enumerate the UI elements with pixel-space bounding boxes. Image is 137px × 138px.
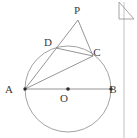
- center-dot-O: [66, 87, 70, 91]
- point-label-C: C: [93, 46, 100, 58]
- page-fold-icon: [119, 2, 134, 19]
- segment-PA: [25, 20, 78, 89]
- point-label-A: A: [5, 83, 13, 95]
- point-label-B: B: [109, 83, 116, 95]
- geometry-canvas: P D C A B O: [0, 0, 137, 138]
- point-label-O: O: [60, 92, 68, 104]
- point-label-P: P: [74, 4, 80, 16]
- vertex-dot-A: [23, 87, 26, 90]
- geometry-figure: P D C A B O: [0, 0, 137, 138]
- segment-PC: [78, 20, 93, 56]
- segment-DC: [56, 48, 93, 56]
- point-label-D: D: [44, 36, 52, 48]
